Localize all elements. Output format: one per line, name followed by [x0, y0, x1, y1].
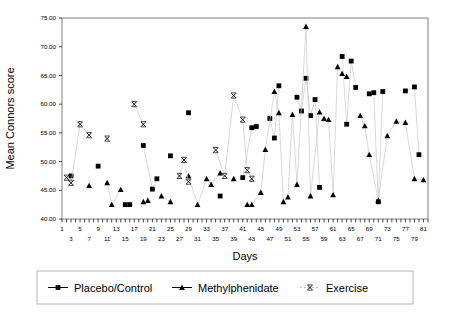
data-point-triangle — [186, 173, 192, 178]
y-tick-label: 40.00 — [41, 215, 57, 222]
data-point-triangle — [109, 202, 115, 207]
data-point-triangle — [344, 74, 350, 79]
y-tick-label: 50.00 — [41, 158, 57, 165]
data-point-x — [64, 175, 69, 180]
x-tick-label-top: 29 — [185, 225, 192, 232]
y-tick-label: 75.00 — [41, 14, 57, 21]
data-point-square — [380, 89, 385, 94]
data-point-triangle — [204, 176, 210, 181]
data-point-triangle — [271, 89, 277, 94]
data-point-triangle — [366, 152, 372, 157]
data-point-triangle — [285, 194, 291, 199]
data-point-triangle — [195, 202, 201, 207]
data-point-square — [127, 202, 132, 207]
data-point-x — [213, 147, 218, 152]
data-point-triangle — [294, 182, 300, 187]
series-methylphenidate — [86, 24, 426, 207]
data-point-x — [249, 176, 254, 181]
x-tick-label-top: 41 — [239, 225, 246, 232]
legend-marker-square — [56, 285, 61, 290]
data-point-triangle — [384, 133, 390, 138]
data-point-triangle — [262, 147, 268, 152]
data-point-square — [412, 85, 417, 90]
x-tick-label-top: 69 — [366, 225, 373, 232]
x-axis-title: Days — [232, 250, 258, 262]
x-tick-label-bottom: 47 — [266, 235, 273, 242]
data-point-triangle — [118, 187, 124, 192]
y-tick-label: 55.00 — [41, 129, 57, 136]
data-point-x — [141, 122, 146, 127]
data-point-triangle — [330, 192, 336, 197]
legend-item-exercise[interactable]: Exercise — [300, 282, 368, 294]
data-point-square — [340, 54, 345, 59]
data-point-triangle — [168, 199, 174, 204]
data-point-triangle — [362, 123, 368, 128]
series-exercise — [64, 93, 254, 185]
y-tick-label: 60.00 — [41, 100, 57, 107]
x-tick-label-top: 81 — [420, 225, 427, 232]
data-point-square — [218, 194, 223, 199]
legend-label: Methylphenidate — [198, 282, 279, 294]
data-point-square — [150, 187, 155, 192]
x-tick-label-top: 33 — [203, 225, 210, 232]
y-axis-title: Mean Connors score — [4, 67, 16, 169]
x-tick-label-top: 25 — [167, 225, 174, 232]
data-point-triangle — [145, 198, 151, 203]
y-tick-label: 45.00 — [41, 186, 57, 193]
x-tick-label-top: 53 — [294, 225, 301, 232]
data-point-triangle — [217, 170, 223, 175]
chart-legend: Placebo/ControlMethylphenidateExercise — [37, 271, 413, 304]
x-tick-label-top: 1 — [60, 225, 64, 232]
x-tick-label-bottom: 3 — [69, 235, 73, 242]
x-axis: 1591317212529333741454953576165697377813… — [60, 219, 428, 242]
x-tick-label-top: 37 — [221, 225, 228, 232]
data-point-square — [317, 185, 322, 190]
data-point-triangle — [86, 183, 92, 188]
x-tick-label-bottom: 67 — [357, 235, 364, 242]
x-tick-label-bottom: 15 — [122, 235, 129, 242]
data-point-square — [168, 153, 173, 158]
data-point-square — [353, 85, 358, 90]
x-tick-label-bottom: 7 — [87, 235, 91, 242]
chart-figure: 40.0045.0050.0055.0060.0065.0070.0075.00… — [0, 0, 450, 316]
data-point-square — [69, 174, 74, 179]
x-tick-label-bottom: 71 — [375, 235, 382, 242]
y-tick-label: 65.00 — [41, 72, 57, 79]
x-tick-label-top: 49 — [275, 225, 282, 232]
x-tick-label-top: 61 — [330, 225, 337, 232]
data-point-square — [344, 122, 349, 127]
x-tick-label-bottom: 79 — [411, 235, 418, 242]
data-point-triangle — [317, 109, 323, 114]
x-tick-label-bottom: 39 — [230, 235, 237, 242]
scatter-plot: 40.0045.0050.0055.0060.0065.0070.0075.00… — [0, 0, 450, 316]
data-point-square — [308, 113, 313, 118]
data-point-triangle — [159, 193, 165, 198]
data-point-square — [272, 136, 277, 141]
data-point-x — [177, 173, 182, 178]
x-tick-label-bottom: 31 — [194, 235, 201, 242]
x-tick-label-top: 17 — [131, 225, 138, 232]
data-point-square — [313, 97, 318, 102]
legend-label: Exercise — [326, 282, 368, 294]
series-connector — [67, 96, 252, 183]
data-point-triangle — [321, 116, 327, 121]
data-point-square — [186, 110, 191, 115]
data-point-square — [349, 59, 354, 64]
x-tick-label-top: 5 — [78, 225, 82, 232]
x-tick-label-bottom: 51 — [284, 235, 291, 242]
data-point-triangle — [339, 71, 345, 76]
data-point-triangle — [290, 111, 296, 116]
legend-item-methylphenidate[interactable]: Methylphenidate — [172, 282, 279, 294]
data-point-triangle — [303, 24, 309, 29]
legend-label: Placebo/Control — [74, 282, 152, 294]
x-tick-label-bottom: 43 — [248, 235, 255, 242]
data-point-triangle — [335, 64, 341, 69]
data-point-x — [105, 136, 110, 141]
legend-item-placebo-control[interactable]: Placebo/Control — [48, 282, 152, 294]
plot-frame — [62, 18, 428, 219]
data-point-triangle — [258, 190, 264, 195]
x-tick-label-bottom: 11 — [104, 235, 111, 242]
x-tick-label-top: 21 — [149, 225, 156, 232]
x-tick-label-top: 13 — [113, 225, 120, 232]
data-point-square — [249, 125, 254, 130]
